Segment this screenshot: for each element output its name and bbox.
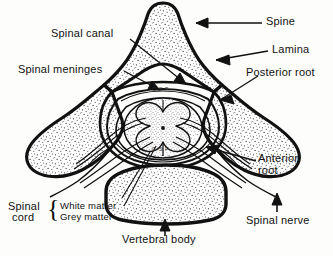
- label-spine: Spine: [266, 15, 295, 28]
- label-posterior-root: Posterior root: [246, 66, 315, 79]
- label-anterior-root-line1: Anterior: [258, 152, 298, 165]
- arrowhead-spine: [196, 18, 208, 28]
- label-grey-matter: Grey matter: [60, 212, 112, 223]
- label-spinal-cord-line2: cord: [12, 211, 34, 224]
- label-spinal-canal: Spinal canal: [51, 27, 113, 40]
- csf-label-lower: C.S.F.: [152, 146, 171, 152]
- spinal-cord-brace: {: [47, 196, 59, 222]
- label-spinal-nerve: Spinal nerve: [246, 214, 310, 227]
- label-spinal-meninges: Spinal meninges: [18, 63, 102, 76]
- label-lamina: Lamina: [272, 43, 309, 56]
- label-anterior-root-line2: root: [258, 164, 278, 177]
- spinous-process: [104, 3, 222, 92]
- arrowhead-spinal-nerve: [272, 193, 282, 205]
- central-canal: [161, 126, 165, 130]
- vertebra-cross-section-figure: C.S.F. C.S.F. Spine Lamina Posterior roo…: [0, 0, 333, 256]
- csf-label-upper: C.S.F.: [152, 86, 171, 92]
- label-vertebral-body: Vertebral body: [122, 233, 196, 246]
- arrowhead-lamina: [216, 55, 230, 65]
